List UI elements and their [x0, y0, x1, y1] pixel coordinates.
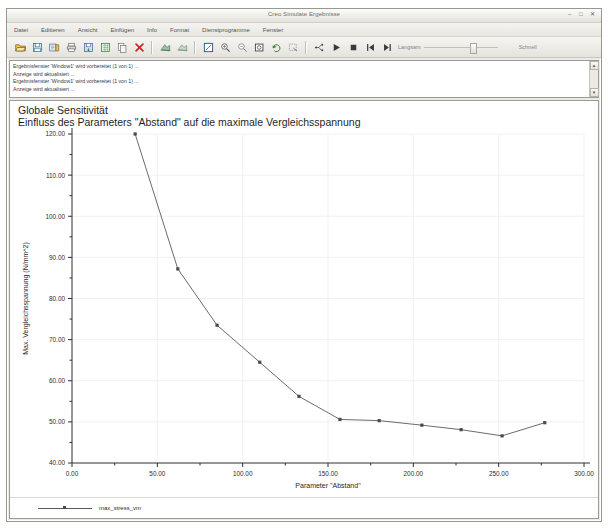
legend-line-swatch: [38, 504, 92, 512]
message-log-lines: Ergebnisfenster 'Window1' wird vorbereit…: [10, 61, 589, 97]
copy-icon[interactable]: [114, 39, 130, 56]
menu-item-info[interactable]: Info: [146, 26, 158, 34]
next-frame-icon[interactable]: [379, 39, 395, 56]
scroll-down-icon[interactable]: ▼: [590, 88, 599, 97]
menu-item-dienstprogramme[interactable]: Dienstprogramme: [201, 26, 251, 34]
message-log-scrollbar[interactable]: ▲ ▼: [589, 61, 598, 97]
toolbar-separator: [151, 41, 153, 54]
menu-item-datei[interactable]: Datei: [13, 26, 29, 34]
svg-text:110.00: 110.00: [46, 172, 66, 179]
menu-item-fenster[interactable]: Fenster: [262, 26, 284, 34]
menu-item-ansicht[interactable]: Ansicht: [77, 26, 99, 34]
full-view-icon[interactable]: [200, 39, 216, 56]
svg-text:150.00: 150.00: [318, 470, 338, 477]
message-log-panel: Ergebnisfenster 'Window1' wird vorbereit…: [9, 60, 599, 98]
scroll-up-icon[interactable]: ▲: [590, 61, 599, 70]
menu-bar: Datei Editieren Ansicht Einfügen Info Fo…: [7, 23, 601, 37]
slider-line: [424, 47, 498, 48]
svg-text:250.00: 250.00: [489, 470, 509, 477]
window-title: Creo Simulate Ergebnisse: [7, 11, 601, 17]
slider-knob[interactable]: [470, 43, 477, 54]
svg-text:60.00: 60.00: [49, 377, 65, 384]
svg-text:Max. Vergleichsspannung (N/mm^: Max. Vergleichsspannung (N/mm^2): [22, 242, 30, 355]
slider-fast-label: Schnell: [519, 44, 537, 50]
slider-track[interactable]: [424, 43, 498, 52]
repaint-icon[interactable]: [268, 39, 284, 56]
legend-label: max_stress_vm: [99, 505, 141, 511]
play-icon[interactable]: [328, 39, 344, 56]
sensitivity-line-chart: 40.0050.0060.0070.0080.0090.00100.00110.…: [10, 101, 598, 501]
title-bar: Creo Simulate Ergebnisse – □ ✕: [7, 9, 601, 23]
zoom-box-icon[interactable]: [251, 39, 267, 56]
delete-icon[interactable]: [131, 39, 147, 56]
log-line: Ergebnisfenster 'Window1' wird vorbereit…: [13, 63, 589, 71]
svg-text:90.00: 90.00: [49, 254, 65, 261]
toolbar-separator-3: [305, 41, 307, 54]
query-icon[interactable]: [285, 39, 301, 56]
svg-text:50.00: 50.00: [49, 418, 65, 425]
svg-text:80.00: 80.00: [49, 295, 65, 302]
hide-result-window-icon[interactable]: [174, 39, 190, 56]
svg-text:100.00: 100.00: [45, 213, 65, 220]
svg-text:70.00: 70.00: [49, 336, 65, 343]
log-line: Anzeige wird aktualisiert ...: [13, 86, 589, 94]
open-icon[interactable]: [12, 39, 28, 56]
window-controls: – □ ✕: [568, 11, 597, 18]
log-line: Anzeige wird aktualisiert ...: [13, 71, 589, 79]
log-line: Ergebnisfenster 'Window1' wird vorbereit…: [13, 78, 589, 86]
stop-icon[interactable]: [345, 39, 361, 56]
creo-simulate-results-window: Creo Simulate Ergebnisse – □ ✕ Datei Edi…: [6, 8, 602, 522]
menu-item-editieren[interactable]: Editieren: [40, 26, 66, 34]
save-copy-icon[interactable]: [46, 39, 62, 56]
chart-legend: max_stress_vm: [38, 504, 141, 512]
svg-text:Parameter "Abstand": Parameter "Abstand": [295, 482, 361, 489]
legend-divider: [10, 497, 598, 498]
zoom-out-icon[interactable]: [234, 39, 250, 56]
print-icon[interactable]: [63, 39, 79, 56]
close-icon[interactable]: ✕: [590, 11, 597, 18]
minimize-icon[interactable]: –: [568, 11, 575, 18]
first-frame-icon[interactable]: [362, 39, 378, 56]
svg-text:200.00: 200.00: [404, 470, 424, 477]
maximize-glyph: □: [579, 11, 583, 18]
slider-slow-label: Langsam: [398, 44, 421, 50]
menu-item-format[interactable]: Format: [169, 26, 190, 34]
svg-text:40.00: 40.00: [49, 459, 65, 466]
maximize-icon[interactable]: □: [579, 11, 586, 18]
chart-panel: Globale Sensitivität Einfluss des Parame…: [9, 100, 599, 519]
show-result-window-icon[interactable]: [157, 39, 173, 56]
close-glyph: ✕: [590, 11, 595, 18]
excel-export-icon[interactable]: [97, 39, 113, 56]
toolbar-separator-2: [194, 41, 196, 54]
minimize-glyph: –: [568, 11, 571, 18]
svg-text:120.00: 120.00: [45, 130, 65, 137]
save-icon[interactable]: [29, 39, 45, 56]
zoom-in-icon[interactable]: [217, 39, 233, 56]
animation-speed-slider[interactable]: Langsam Schnell: [398, 43, 537, 52]
export-icon[interactable]: [80, 39, 96, 56]
animate-branch-icon[interactable]: [311, 39, 327, 56]
svg-text:100.00: 100.00: [233, 470, 253, 477]
svg-text:0.00: 0.00: [66, 470, 79, 477]
menu-item-einfuegen[interactable]: Einfügen: [109, 26, 135, 34]
toolbar: Langsam Schnell: [7, 37, 601, 58]
svg-text:300.00: 300.00: [574, 470, 594, 477]
svg-text:50.00: 50.00: [149, 470, 165, 477]
